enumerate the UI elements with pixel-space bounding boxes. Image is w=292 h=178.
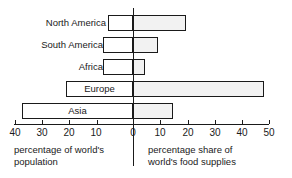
bar-left-africa bbox=[103, 59, 133, 75]
bar-right-south-america bbox=[133, 37, 158, 53]
chart-row-africa: Africa bbox=[0, 56, 292, 78]
x-tick-30-right bbox=[215, 120, 216, 124]
zero-axis-line bbox=[133, 8, 134, 166]
x-tick-label-40-left: 40 bbox=[5, 127, 25, 138]
x-tick-30-left bbox=[42, 120, 43, 124]
bar-left-south-america bbox=[103, 37, 133, 53]
axis-caption-left-line1: percentage of world's bbox=[14, 144, 126, 156]
bar-right-north-america bbox=[133, 15, 186, 31]
chart-figure: North America South America Africa Europ… bbox=[0, 0, 292, 178]
row-label-south-america: South America bbox=[33, 34, 106, 56]
bar-right-asia bbox=[133, 103, 173, 119]
x-tick-label-0: 0 bbox=[123, 127, 143, 138]
row-label-europe: Europe bbox=[66, 78, 133, 100]
bar-right-europe bbox=[133, 81, 264, 97]
x-tick-50-right bbox=[269, 120, 270, 124]
x-tick-40-left bbox=[15, 120, 16, 124]
axis-caption-left: percentage of world's population bbox=[14, 144, 126, 168]
x-tick-label-10-right: 10 bbox=[150, 127, 170, 138]
x-tick-20-left bbox=[69, 120, 70, 124]
x-tick-10-right bbox=[160, 120, 161, 124]
x-tick-label-30-right: 30 bbox=[205, 127, 225, 138]
x-tick-20-right bbox=[188, 120, 189, 124]
axis-caption-right-line1: percentage share of bbox=[148, 144, 278, 156]
bar-left-north-america bbox=[108, 15, 133, 31]
row-label-asia: Asia bbox=[22, 100, 133, 122]
row-label-africa: Africa bbox=[58, 56, 106, 78]
x-tick-label-20-left: 20 bbox=[59, 127, 79, 138]
x-tick-0 bbox=[133, 120, 134, 124]
bar-right-africa bbox=[133, 59, 145, 75]
chart-row-south-america: South America bbox=[0, 34, 292, 56]
x-tick-10-left bbox=[97, 120, 98, 124]
axis-caption-left-line2: population bbox=[14, 156, 126, 168]
x-tick-label-10-left: 10 bbox=[86, 127, 106, 138]
chart-row-europe: Europe bbox=[0, 78, 292, 100]
axis-caption-right: percentage share of world's food supplie… bbox=[148, 144, 278, 168]
x-axis-line bbox=[14, 124, 269, 125]
plot-area: North America South America Africa Europ… bbox=[0, 0, 292, 122]
row-label-north-america: North America bbox=[36, 12, 109, 34]
x-tick-label-20-right: 20 bbox=[178, 127, 198, 138]
x-tick-40-right bbox=[242, 120, 243, 124]
axis-caption-right-line2: world's food supplies bbox=[148, 156, 278, 168]
chart-row-asia: Asia bbox=[0, 100, 292, 122]
x-tick-label-50-right: 50 bbox=[259, 127, 279, 138]
x-tick-label-40-right: 40 bbox=[232, 127, 252, 138]
chart-row-north-america: North America bbox=[0, 12, 292, 34]
x-tick-label-30-left: 30 bbox=[32, 127, 52, 138]
